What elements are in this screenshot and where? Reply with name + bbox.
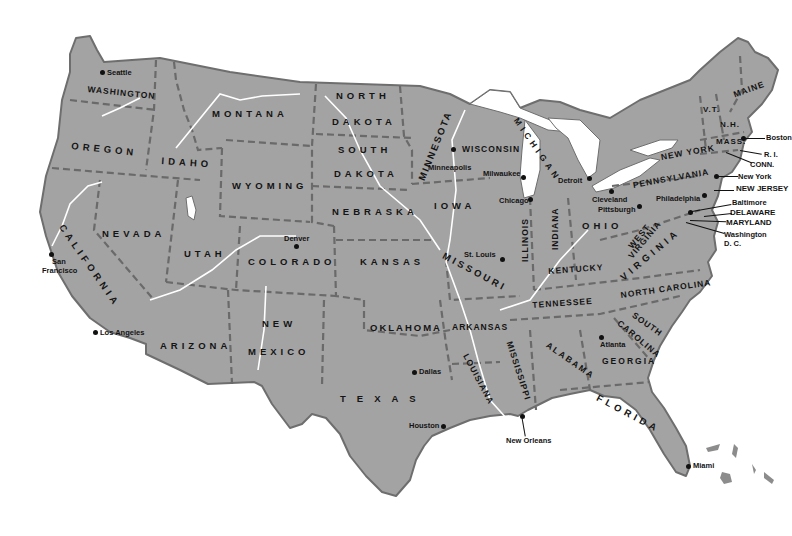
city-label-los-angeles: Los Angeles bbox=[100, 328, 144, 337]
city-label-minneapolis: Minneapolis bbox=[428, 163, 471, 172]
city-marker-dallas bbox=[412, 370, 417, 375]
state-label-nebraska: NEBRASKA bbox=[332, 206, 418, 217]
state-label-illinois: ILLINOIS bbox=[520, 218, 530, 262]
state-label-new-mexico-1: NEW bbox=[262, 318, 296, 329]
state-label-montana: MONTANA bbox=[212, 108, 288, 119]
leader-line bbox=[745, 138, 765, 139]
city-label-san-francisco-1: San bbox=[52, 257, 66, 266]
city-marker-pittsburgh bbox=[637, 204, 642, 209]
city-label-san-francisco-2: Francisco bbox=[42, 266, 77, 275]
state-label-arkansas: ARKANSAS bbox=[452, 322, 508, 332]
state-label-vermont: V.T. bbox=[703, 105, 720, 114]
state-label-wyoming: WYOMING bbox=[232, 180, 308, 191]
city-marker-miami bbox=[686, 464, 691, 469]
state-label-north-dakota-1: NORTH bbox=[336, 90, 390, 101]
city-marker-denver bbox=[294, 244, 299, 249]
island bbox=[764, 472, 774, 484]
state-label-colorado: COLORADO bbox=[248, 256, 335, 267]
callout-maryland: MARYLAND bbox=[726, 218, 771, 227]
city-label-new-orleans: New Orleans bbox=[506, 436, 551, 445]
city-marker-milwaukee bbox=[521, 175, 526, 180]
callout-washington-dc-2: D. C. bbox=[724, 239, 741, 248]
state-label-nevada: NEVADA bbox=[102, 228, 165, 239]
city-label-chicago: Chicago bbox=[499, 196, 529, 205]
us-map bbox=[0, 0, 792, 536]
city-label-cleveland: Cleveland bbox=[592, 195, 627, 204]
state-label-georgia: GEORGIA bbox=[602, 356, 656, 366]
leader-line bbox=[714, 190, 734, 191]
callout-connecticut: CONN. bbox=[750, 160, 774, 169]
state-label-kansas: KANSAS bbox=[360, 256, 424, 267]
city-label-dallas: Dallas bbox=[419, 367, 441, 376]
state-label-new-hampshire: N.H. bbox=[720, 120, 740, 129]
state-label-south-dakota-1: SOUTH bbox=[338, 144, 391, 155]
callout-new-jersey: NEW JERSEY bbox=[736, 184, 788, 193]
state-label-iowa: IOWA bbox=[434, 200, 475, 211]
city-marker-philadelphia bbox=[702, 193, 707, 198]
city-marker-los-angeles bbox=[93, 330, 98, 335]
state-label-ohio: OHIO bbox=[582, 220, 622, 231]
city-label-milwaukee: Milwaukee bbox=[483, 169, 521, 178]
city-marker-houston bbox=[441, 424, 446, 429]
island bbox=[720, 472, 732, 484]
callout-baltimore: Baltimore bbox=[732, 198, 767, 207]
callout-delaware: DELAWARE bbox=[730, 208, 775, 217]
city-label-seattle: Seattle bbox=[107, 68, 132, 77]
island bbox=[706, 444, 720, 452]
city-marker-detroit bbox=[587, 176, 592, 181]
city-marker-st-louis bbox=[500, 257, 505, 262]
callout-rhode-island: R. I. bbox=[764, 150, 778, 159]
state-label-utah: UTAH bbox=[184, 248, 226, 259]
city-label-st-louis: St. Louis bbox=[464, 250, 496, 259]
state-label-wisconsin: WISCONSIN bbox=[462, 144, 520, 154]
city-label-houston: Houston bbox=[409, 421, 439, 430]
city-marker-minneapolis bbox=[451, 147, 456, 152]
callout-new-york-city: New York bbox=[738, 172, 772, 181]
island bbox=[732, 444, 738, 458]
callout-washington-dc-1: Washington bbox=[724, 230, 767, 239]
state-label-new-mexico-2: MEXICO bbox=[248, 346, 309, 357]
state-label-arizona: ARIZONA bbox=[160, 340, 231, 351]
city-label-denver: Denver bbox=[284, 234, 309, 243]
callout-boston: Boston bbox=[766, 133, 792, 142]
state-label-indiana: INDIANA bbox=[550, 208, 560, 250]
city-label-atlanta: Atlanta bbox=[600, 340, 625, 349]
city-label-philadelphia: Philadelphia bbox=[656, 194, 700, 203]
island bbox=[752, 464, 756, 474]
city-label-pittsburgh: Pittsburgh bbox=[598, 205, 636, 214]
state-label-north-dakota-2: DAKOTA bbox=[332, 116, 396, 127]
leader-line bbox=[718, 176, 738, 177]
city-label-detroit: Detroit bbox=[558, 176, 582, 185]
state-label-texas: TEXAS bbox=[340, 393, 427, 404]
state-label-south-dakota-2: DAKOTA bbox=[334, 168, 398, 179]
city-label-miami: Miami bbox=[693, 461, 714, 470]
city-marker-cleveland bbox=[609, 189, 614, 194]
city-marker-seattle bbox=[100, 70, 105, 75]
state-label-oklahoma: OKLAHOMA bbox=[370, 322, 442, 333]
